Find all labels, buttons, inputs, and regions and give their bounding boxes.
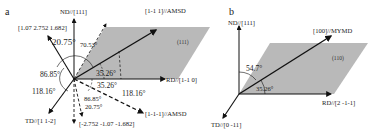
panel-b-label: b (229, 6, 234, 17)
rd-axis-label-b: RD//[2 -1-1] (322, 99, 355, 107)
angle-70-53: 70.53° (80, 41, 98, 48)
angle-35-26-b: 35.26° (256, 85, 274, 92)
angle-86-85-left: 86.85° (40, 70, 60, 79)
td-axis-arrow (49, 79, 74, 113)
mymd-label: [100]//MYMD (313, 27, 352, 35)
nd-axis-label: ND//[111] (60, 8, 87, 16)
amsd-down-label: [1-1-1]//AMSD (145, 110, 187, 118)
angle-118-16-right: 118.16° (122, 89, 146, 98)
panel-a: a (111) ND//[111] RD//[1-1 0] [1-1 1]//A… (5, 6, 210, 128)
angle-86-85-lower: 86.85° (84, 95, 102, 102)
angle-20-75-lower: 20.75° (85, 103, 103, 110)
td-axis-label: TD//[1 1-2] (25, 117, 56, 125)
plane-110-label: (110) (332, 55, 344, 62)
angle-35-26-lower: 35.26° (97, 81, 117, 90)
crystal-orientation-diagram: a (111) ND//[111] RD//[1-1 0] [1-1 1]//A… (0, 0, 385, 132)
nd-axis-label-b: ND//[111] (228, 19, 255, 27)
upper-left-vector-label: [1.07 2.752 1.682] (18, 24, 67, 32)
angle-35-26-upper: 35.26° (96, 69, 116, 78)
arc-lower (88, 79, 92, 91)
amsd-up-label: [1-1 1]//AMSD (145, 7, 186, 15)
panel-b: b (110) ND//[111] RD//[2 -1-1] [100]//MY… (211, 6, 368, 129)
arc-left (60, 68, 68, 91)
rd-axis-label: RD//[1-1 0] (166, 76, 197, 84)
lower-vector-label: [-2.752 -1.07 -1.682] (79, 120, 135, 128)
angle-118-16-left: 118.16° (32, 87, 56, 96)
plane-111 (74, 27, 210, 79)
angle-20-75-upper: 20.75° (52, 37, 76, 47)
td-axis-label-b: TD//[0 -11] (211, 121, 241, 129)
angle-54-7: 54.7° (246, 64, 262, 73)
plane-111-label: (111) (177, 39, 189, 46)
dashed-down-right-arrow (74, 79, 82, 116)
panel-a-label: a (5, 6, 10, 17)
td-axis-arrow-b (223, 94, 239, 118)
